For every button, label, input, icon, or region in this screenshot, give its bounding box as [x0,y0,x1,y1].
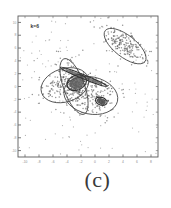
svg-text:-10: -10 [23,160,28,164]
plot-annotation-k: k=6 [31,23,40,29]
svg-text:-2: -2 [13,98,16,102]
svg-text:0: 0 [94,160,96,164]
svg-text:-8: -8 [38,160,41,164]
figure-panel: -10-8-6-4-2024681086420-2-4-6-8-10 k=6 (… [0,0,171,208]
svg-text:-8: -8 [13,136,16,140]
svg-text:2: 2 [108,160,110,164]
svg-text:-6: -6 [52,160,55,164]
svg-text:0: 0 [15,85,17,89]
svg-text:-6: -6 [13,123,16,127]
svg-text:4: 4 [15,59,17,63]
figure-caption-text: (c) [85,168,111,192]
svg-text:8: 8 [150,160,152,164]
svg-text:4: 4 [122,160,124,164]
svg-text:-10: -10 [12,149,17,153]
svg-text:6: 6 [136,160,138,164]
svg-text:-2: -2 [80,160,83,164]
svg-text:6: 6 [15,46,17,50]
figure-caption: (c) [0,168,171,192]
svg-text:k=6: k=6 [31,23,40,29]
svg-text:2: 2 [15,72,17,76]
svg-text:-4: -4 [66,160,69,164]
svg-text:8: 8 [15,33,17,37]
svg-text:-4: -4 [13,110,16,114]
svg-text:10: 10 [13,21,17,25]
